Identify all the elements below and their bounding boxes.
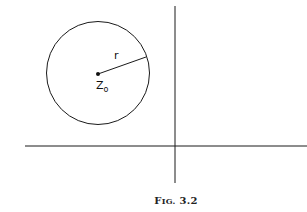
center-label: Zo [96,79,108,92]
radius-label: r [114,49,119,62]
center-label-subscript: o [104,85,109,94]
caption-number: 3.2 [179,195,197,206]
complex-plane-diagram [0,0,307,212]
caption-smallcaps: IG. [162,196,176,206]
caption-prefix: F [154,195,161,206]
center-point [96,72,100,76]
center-label-main: Z [96,79,104,92]
figure-caption: FIG. 3.2 [0,195,307,206]
radius-line [98,57,146,74]
